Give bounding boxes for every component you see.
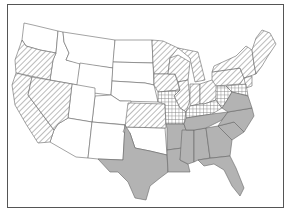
state-nm bbox=[88, 122, 125, 160]
state-ks bbox=[125, 103, 166, 128]
us-map bbox=[0, 0, 292, 217]
state-nd bbox=[113, 40, 153, 63]
state-ne bbox=[111, 81, 158, 102]
state-ut bbox=[68, 84, 95, 122]
state-in bbox=[190, 84, 200, 106]
state-fl bbox=[198, 156, 244, 196]
state-ms bbox=[180, 130, 194, 164]
state-ne-states bbox=[252, 30, 276, 74]
